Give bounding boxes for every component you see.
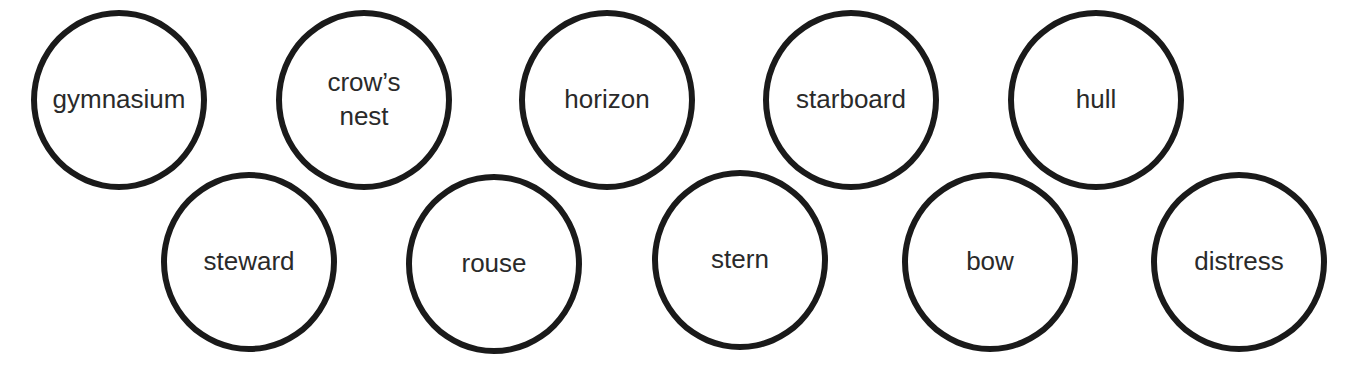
word-bubble-steward: steward [161,172,337,352]
word-bubble-hull: hull [1008,10,1184,190]
word-bubble-distress: distress [1151,172,1327,352]
word-label: rouse [457,247,530,281]
word-label: crow’s nest [310,66,418,134]
word-bubble-rouse: rouse [406,174,582,354]
word-label: starboard [792,83,910,117]
word-label: bow [962,245,1018,279]
word-bubble-crows-nest: crow’s nest [276,10,452,190]
word-label: distress [1190,245,1288,279]
word-bubble-bow: bow [902,172,1078,352]
word-bubble-horizon: horizon [519,10,695,190]
word-label: hull [1072,83,1120,117]
word-bubble-starboard: starboard [763,10,939,190]
word-label: horizon [560,83,653,117]
word-label: steward [199,245,298,279]
word-label: gymnasium [49,83,190,117]
word-bubble-stern: stern [652,170,828,350]
word-bubble-gymnasium: gymnasium [31,10,207,190]
word-label: stern [707,243,773,277]
